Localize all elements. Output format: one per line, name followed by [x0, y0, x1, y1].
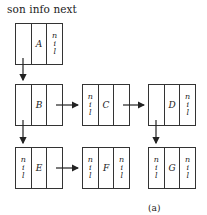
edge-arrows	[0, 0, 207, 215]
figure-caption: (a)	[148, 203, 160, 213]
